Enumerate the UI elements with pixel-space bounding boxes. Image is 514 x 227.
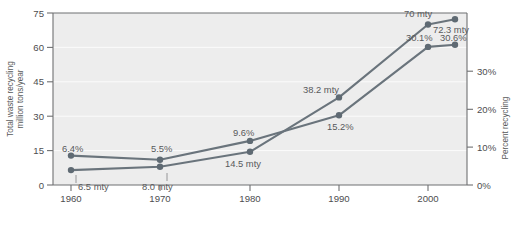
- y-axis-title-line2: million tons/year: [16, 69, 25, 128]
- data-point-pct-1990: [336, 112, 342, 118]
- y-tick-label-0: 0: [39, 180, 44, 191]
- y2-tick-label-10: 10%: [477, 142, 497, 153]
- y-tick-label-30: 30: [33, 111, 44, 122]
- y2-tick-label-30: 30%: [477, 66, 497, 77]
- data-point-mty-1960: [68, 167, 74, 173]
- label-mty-1990: 38.2 mty: [303, 84, 339, 95]
- y-tick-label-60: 60: [33, 42, 44, 53]
- data-point-pct-1970: [157, 157, 163, 163]
- label-mty-1960: 6.5 mty: [78, 181, 109, 192]
- data-point-mty-1980: [247, 149, 253, 155]
- y-tick-label-15: 15: [33, 145, 44, 156]
- y2-tick-label-0: 0%: [477, 180, 491, 191]
- x-axis-ticks: [71, 185, 428, 191]
- left-axis-ticks: [47, 13, 53, 185]
- label-pct-1980: 9.6%: [233, 127, 254, 138]
- label-pct-1990: 15.2%: [327, 121, 354, 132]
- data-point-mty-1990: [336, 94, 342, 100]
- y-tick-label-45: 45: [33, 76, 44, 87]
- data-point-pct-1980: [247, 138, 253, 144]
- y-tick-label-75: 75: [33, 8, 44, 19]
- label-mty-2003: 72.3 mty: [433, 24, 469, 35]
- x-tick-label-1990: 1990: [328, 193, 349, 204]
- x-tick-label-2000: 2000: [417, 193, 438, 204]
- x-tick-label-1980: 1980: [239, 193, 260, 204]
- label-mty-1970: 8.0 mty: [142, 181, 173, 192]
- data-point-mty-2003: [452, 16, 458, 22]
- y2-tick-label-20: 20%: [477, 104, 497, 115]
- label-mty-2000: 70 mty: [404, 8, 432, 19]
- data-point-mty-2000: [425, 21, 431, 27]
- label-pct-1970: 5.5%: [151, 143, 172, 154]
- y-axis-title: Total waste recycling million tons/year: [6, 61, 25, 137]
- label-mty-1980: 14.5 mty: [225, 158, 261, 169]
- y2-axis-title: Percent recycling: [501, 96, 510, 159]
- right-axis-ticks: [467, 71, 473, 185]
- chart-container: 75 60 45 30 15 0 30% 20% 10% 0% 1960 197…: [0, 0, 514, 227]
- label-pct-2000: 30.1%: [406, 32, 433, 43]
- x-tick-label-1970: 1970: [149, 193, 170, 204]
- line-chart: 75 60 45 30 15 0 30% 20% 10% 0% 1960 197…: [0, 0, 514, 227]
- x-tick-label-1960: 1960: [60, 193, 81, 204]
- data-point-mty-1970: [157, 164, 163, 170]
- label-pct-1960: 6.4%: [62, 143, 83, 154]
- data-point-pct-2000: [425, 44, 431, 50]
- y-axis-title-line1: Total waste recycling: [6, 61, 15, 137]
